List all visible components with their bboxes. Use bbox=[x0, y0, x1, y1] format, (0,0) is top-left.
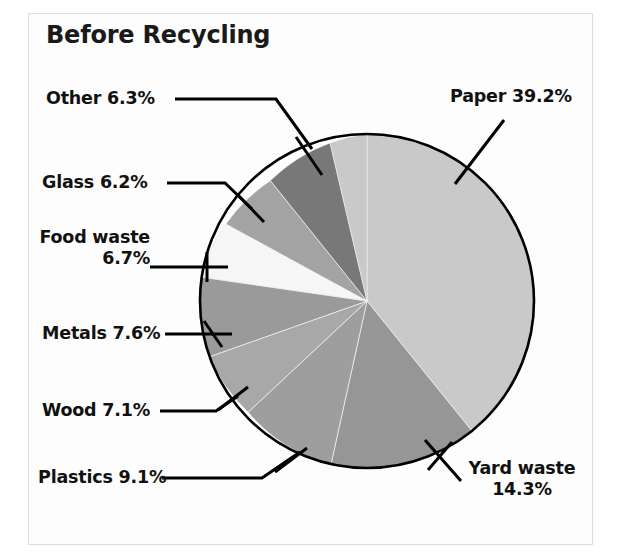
slice-label-other: Other 6.3% bbox=[46, 88, 155, 109]
slice-label-food-waste: Food waste 6.7% bbox=[0, 227, 150, 270]
slice-label-yard-waste-line2: 14.3% bbox=[452, 479, 592, 500]
slice-label-food-waste-line2: 6.7% bbox=[0, 248, 150, 269]
leader-line-paper bbox=[455, 120, 504, 184]
slice-label-paper: Paper 39.2% bbox=[450, 86, 572, 107]
leader-line-other bbox=[175, 99, 312, 149]
slice-label-wood: Wood 7.1% bbox=[42, 400, 150, 421]
slice-label-metals: Metals 7.6% bbox=[42, 323, 160, 344]
slice-label-glass: Glass 6.2% bbox=[42, 172, 148, 193]
leader-tick-plastics bbox=[275, 448, 307, 472]
leader-line-plastics bbox=[162, 452, 300, 478]
figure-root: Before Recycling bbox=[0, 0, 621, 553]
slice-label-plastics: Plastics 9.1% bbox=[38, 467, 166, 488]
slice-label-yard-waste-line1: Yard waste bbox=[469, 458, 576, 478]
slice-label-yard-waste: Yard waste 14.3% bbox=[452, 458, 592, 501]
slice-label-food-waste-line1: Food waste bbox=[39, 227, 150, 247]
